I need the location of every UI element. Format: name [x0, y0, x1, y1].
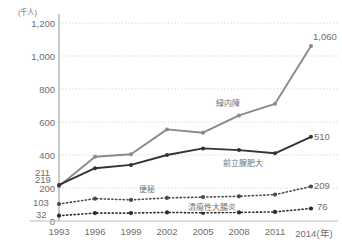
x-axis-tick-label: 2008	[228, 226, 249, 237]
data-point-marker	[201, 146, 205, 150]
x-axis-tick-label: 1996	[84, 226, 105, 237]
data-point-marker	[309, 206, 313, 210]
data-point-marker	[273, 193, 277, 197]
plot-area	[0, 0, 342, 247]
gridlines	[59, 23, 338, 188]
data-point-marker	[57, 183, 61, 187]
data-point-marker	[93, 166, 97, 170]
data-point-marker	[237, 210, 241, 214]
data-point-marker	[309, 135, 313, 139]
data-point-marker	[309, 44, 313, 48]
data-point-marker	[165, 210, 169, 214]
series-lines	[59, 46, 311, 216]
data-point-marker	[309, 184, 313, 188]
data-point-marker	[273, 151, 277, 155]
data-point-marker	[201, 131, 205, 135]
data-point-marker	[129, 163, 133, 167]
data-point-marker	[237, 148, 241, 152]
end-label-colitis: 76	[317, 201, 328, 212]
data-point-marker	[273, 210, 277, 214]
series-line	[59, 137, 311, 185]
data-point-marker	[201, 195, 205, 199]
data-point-marker	[57, 214, 61, 218]
x-axis-tick-label: 2005	[192, 226, 213, 237]
data-point-marker	[237, 194, 241, 198]
data-point-marker	[237, 113, 241, 117]
data-point-marker	[165, 127, 169, 131]
start-label-constipation: 103	[33, 197, 49, 208]
data-point-marker	[129, 198, 133, 202]
data-point-marker	[165, 153, 169, 157]
data-point-marker	[129, 152, 133, 156]
x-axis-tick-label: 1999	[120, 226, 141, 237]
series-annotation-glaucoma: 緑内障	[215, 97, 241, 108]
data-point-marker	[273, 102, 277, 106]
end-label-prostate: 510	[314, 131, 330, 142]
axis-lines	[30, 14, 338, 221]
x-axis-tick-label: 2014(年)	[295, 226, 332, 240]
start-label-colitis: 32	[36, 209, 47, 220]
line-chart: (千人) 02004006008001,0001,200 21121910332…	[0, 0, 342, 247]
data-point-marker	[129, 211, 133, 215]
data-point-marker	[93, 155, 97, 159]
series-annotation-prostate: 前立腺肥大	[222, 157, 264, 168]
series-annotation-constipation: 便秘	[138, 183, 156, 194]
start-label-prostate: 219	[35, 174, 51, 185]
data-point-marker	[165, 196, 169, 200]
end-label-constipation: 209	[314, 180, 330, 191]
data-point-marker	[93, 211, 97, 215]
data-point-marker	[93, 197, 97, 201]
x-axis-tick-label: 2011	[265, 226, 285, 237]
series-annotation-colitis: 潰瘍性大腸炎	[187, 201, 237, 212]
series-line	[59, 46, 311, 186]
x-axis-tick-label: 1993	[48, 226, 69, 237]
data-point-marker	[57, 202, 61, 206]
end-label-glaucoma: 1,060	[313, 31, 337, 42]
x-axis-tick-label: 2002	[156, 226, 177, 237]
